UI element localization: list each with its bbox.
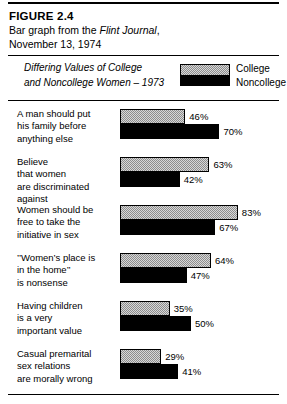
bar-group-label: Women should befree to take theinitiativ… <box>17 204 117 241</box>
bar-value-label: 47% <box>191 270 210 281</box>
bar-college <box>120 349 161 364</box>
legend: Differing Values of College and Noncolle… <box>0 60 287 98</box>
bar-group-label-line: ’’Women’s place is <box>17 252 95 263</box>
bar-group-label: Believethat womenare discriminatedagains… <box>17 156 117 206</box>
bar-group: Women should befree to take theinitiativ… <box>0 200 287 248</box>
bar-college <box>120 157 209 172</box>
bar-group-label: A man should puthis family beforeanythin… <box>17 108 117 145</box>
bar-group-label-line: Having children <box>17 300 82 311</box>
bar-group-label-line: is a very <box>17 312 52 323</box>
bar-group: Believethat womenare discriminatedagains… <box>0 152 287 200</box>
bar-group-label-line: are discriminated <box>17 181 89 192</box>
bar-value-label: 42% <box>184 174 203 185</box>
caption-suffix: , <box>157 24 160 36</box>
bar-group-label-line: initiative in sex <box>17 229 79 240</box>
bar-value-label: 35% <box>174 303 193 314</box>
figure-2-4: FIGURE 2.4 Bar graph from the Flint Jour… <box>0 0 287 404</box>
bar-group: ’’Women’s place isin the home’’is nonsen… <box>0 248 287 296</box>
bar-college <box>120 205 238 220</box>
legend-swatch-block <box>180 64 230 86</box>
legend-title: Differing Values of College and Noncolle… <box>24 61 174 90</box>
bar-noncollege <box>120 172 180 187</box>
bar-value-label: 29% <box>165 351 184 362</box>
legend-title-line-2: and Noncollege Women – 1973 <box>24 77 164 88</box>
legend-title-line-1: Differing Values of College <box>24 62 142 73</box>
bar-value-label: 70% <box>223 126 242 137</box>
bar-group: A man should puthis family beforeanythin… <box>0 104 287 152</box>
bar-value-label: 83% <box>242 207 261 218</box>
bar-group-label-line: are morally wrong <box>17 373 93 384</box>
figure-caption: Bar graph from the Flint Journal, Novemb… <box>9 24 259 51</box>
bar-group-label-line: A man should put <box>17 108 90 119</box>
bar-group-label: ’’Women’s place isin the home’’is nonsen… <box>17 252 117 289</box>
bar-group-label-line: that women <box>17 168 66 179</box>
bar-chart: A man should puthis family beforeanythin… <box>0 104 287 392</box>
bar-noncollege <box>120 268 187 283</box>
rule-under-header <box>8 55 279 56</box>
bar-noncollege <box>120 316 191 331</box>
bar-group-label-line: anything else <box>17 133 73 144</box>
bar-value-label: 50% <box>195 318 214 329</box>
bar-group-label-line: his family before <box>17 120 86 131</box>
legend-swatch-college <box>181 65 229 76</box>
caption-source: Flint Journal <box>99 24 156 36</box>
bar-group-label-line: in the home’’ <box>17 264 71 275</box>
bar-noncollege <box>120 364 178 379</box>
legend-keys: College Noncollege <box>236 62 286 89</box>
bar-value-label: 64% <box>215 255 234 266</box>
bar-noncollege <box>120 220 215 235</box>
bar-college <box>120 109 185 124</box>
bar-college <box>120 253 211 268</box>
bar-value-label: 67% <box>219 222 238 233</box>
rule-under-legend <box>8 100 279 101</box>
bar-value-label: 41% <box>182 366 201 377</box>
bar-college <box>120 301 170 316</box>
bar-group-label-line: Casual premarital <box>17 348 91 359</box>
figure-header: FIGURE 2.4 Bar graph from the Flint Jour… <box>9 9 259 51</box>
bar-group-label-line: Believe <box>17 156 48 167</box>
bar-group-label: Having childrenis a veryimportant value <box>17 300 117 337</box>
rule-top <box>8 2 279 4</box>
caption-date: November 13, 1974 <box>9 38 101 50</box>
caption-prefix: Bar graph from the <box>9 24 99 36</box>
legend-key-college: College <box>236 62 286 76</box>
bar-value-label: 46% <box>189 111 208 122</box>
bar-group: Having childrenis a veryimportant value3… <box>0 296 287 344</box>
bar-group-label-line: is nonsense <box>17 277 68 288</box>
bar-value-label: 63% <box>213 159 232 170</box>
bar-noncollege <box>120 124 219 139</box>
bar-group-label-line: Women should be <box>17 204 93 215</box>
rule-bottom <box>8 394 279 395</box>
bar-group: Casual premaritalsex relationsare morall… <box>0 344 287 392</box>
bar-group-label: Casual premaritalsex relationsare morall… <box>17 348 117 385</box>
bar-group-label-line: free to take the <box>17 216 80 227</box>
legend-swatch-noncollege <box>181 76 229 85</box>
bar-group-label-line: important value <box>17 325 82 336</box>
bar-group-label-line: sex relations <box>17 360 70 371</box>
legend-key-noncollege: Noncollege <box>236 76 286 90</box>
figure-number: FIGURE 2.4 <box>9 9 259 23</box>
